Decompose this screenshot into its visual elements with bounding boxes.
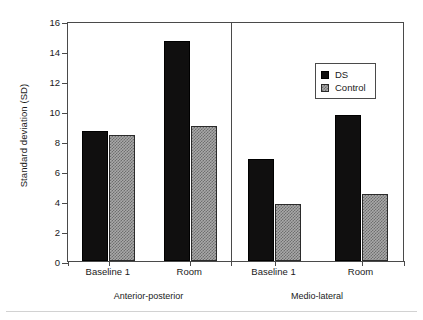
y-tick-mark <box>62 113 68 114</box>
legend-swatch-control <box>321 84 329 92</box>
legend-item-control: Control <box>321 81 366 94</box>
chart-legend: DS Control <box>315 63 376 99</box>
x-category-label: Baseline 1 <box>251 266 295 277</box>
x-category-label: Baseline 1 <box>86 266 130 277</box>
y-tick-label: 6 <box>38 168 60 178</box>
y-tick-label: 16 <box>38 18 60 28</box>
legend-swatch-ds <box>321 71 329 79</box>
legend-item-ds: DS <box>321 68 366 81</box>
x-category-label: Room <box>177 266 202 277</box>
y-tick-label: 12 <box>38 78 60 88</box>
y-tick-mark <box>62 53 68 54</box>
legend-label-ds: DS <box>335 70 348 80</box>
y-tick-label: 14 <box>38 48 60 58</box>
x-category-label: Room <box>348 266 373 277</box>
bar-control-medio-lateral-room <box>362 194 388 262</box>
panel-divider <box>231 23 232 263</box>
plot-area: 0246810121416 DS Control <box>67 22 404 262</box>
bar-ds-anterior-posterior-baseline-1 <box>82 131 108 261</box>
x-axis-edge-tick <box>404 261 405 266</box>
bar-chart-figure: Standard deviation (SD) 0246810121416 DS… <box>0 0 423 320</box>
x-axis-edge-tick <box>231 261 232 266</box>
bar-control-anterior-posterior-baseline-1 <box>109 135 135 261</box>
bar-ds-medio-lateral-room <box>335 115 361 261</box>
y-tick-label: 10 <box>38 108 60 118</box>
bar-control-anterior-posterior-room <box>191 126 217 261</box>
footer-divider <box>6 311 417 312</box>
y-tick-mark <box>62 143 68 144</box>
y-tick-label: 8 <box>38 138 60 148</box>
y-tick-label: 4 <box>38 198 60 208</box>
x-axis-edge-tick <box>68 261 69 266</box>
y-tick-mark <box>62 173 68 174</box>
legend-label-control: Control <box>335 83 366 93</box>
y-tick-label: 0 <box>38 258 60 268</box>
panel-label: Medio-lateral <box>291 291 343 301</box>
bar-ds-medio-lateral-baseline-1 <box>248 159 274 261</box>
y-tick-mark <box>62 203 68 204</box>
bar-ds-anterior-posterior-room <box>164 41 190 261</box>
y-tick-mark <box>62 83 68 84</box>
panel-label: Anterior-posterior <box>114 291 184 301</box>
bar-control-medio-lateral-baseline-1 <box>275 204 301 261</box>
y-tick-mark <box>62 23 68 24</box>
y-axis-title: Standard deviation (SD) <box>18 41 29 231</box>
y-tick-label: 2 <box>38 228 60 238</box>
y-tick-mark <box>62 233 68 234</box>
